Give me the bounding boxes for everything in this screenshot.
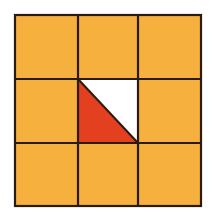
- cell-2-2: [138, 143, 201, 206]
- cell-2-0: [15, 143, 78, 206]
- cell-1-2: [138, 79, 201, 143]
- center-cell: [78, 79, 138, 143]
- cell-0-2: [138, 15, 201, 79]
- cell-1-0: [15, 79, 78, 143]
- cell-0-0: [15, 15, 78, 79]
- cell-0-1: [78, 15, 138, 79]
- cell-2-1: [78, 143, 138, 206]
- grid-diagram: [0, 0, 216, 217]
